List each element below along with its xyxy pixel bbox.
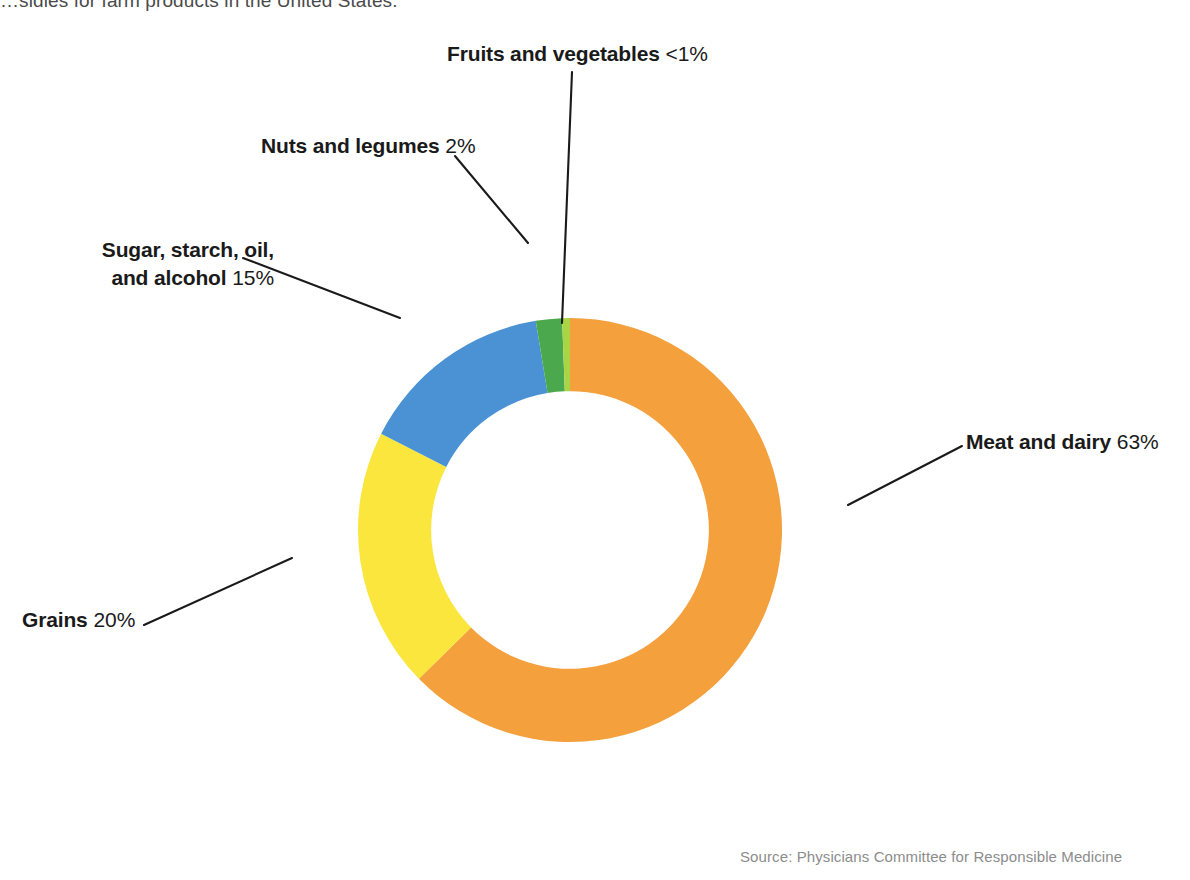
leader-line-meat	[848, 446, 962, 505]
label-sugar-name-line2: and alcohol	[111, 266, 226, 289]
source-credit: Source: Physicians Committee for Respons…	[740, 848, 1122, 865]
label-nuts-and-legumes: Nuts and legumes 2%	[261, 133, 475, 159]
leader-line-fruits	[562, 72, 572, 323]
donut-slices	[358, 318, 782, 742]
label-meat-value: 63%	[1117, 430, 1159, 453]
label-meat-and-dairy: Meat and dairy 63%	[966, 429, 1159, 455]
leader-line-nuts	[455, 156, 528, 243]
donut-chart: Fruits and vegetables <1% Nuts and legum…	[0, 0, 1190, 880]
label-meat-name: Meat and dairy	[966, 430, 1111, 453]
label-grains: Grains 20%	[22, 607, 135, 633]
label-sugar-value: 15%	[232, 266, 274, 289]
label-fruits-name: Fruits and vegetables	[447, 42, 660, 65]
label-sugar-starch-oil-alcohol: Sugar, starch, oil, and alcohol 15%	[52, 236, 274, 292]
label-grains-name: Grains	[22, 608, 88, 631]
label-grains-value: 20%	[93, 608, 135, 631]
label-fruits-value: <1%	[666, 42, 708, 65]
chart-page: …sidies for farm products in the United …	[0, 0, 1190, 880]
label-sugar-name-line1: Sugar, starch, oil,	[102, 238, 274, 261]
label-nuts-name: Nuts and legumes	[261, 134, 439, 157]
label-nuts-value: 2%	[445, 134, 475, 157]
slice-sugar-starch-oil-alcohol[interactable]	[381, 321, 547, 467]
label-fruits-and-vegetables: Fruits and vegetables <1%	[447, 41, 708, 67]
leader-line-grains	[144, 558, 292, 625]
slice-grains[interactable]	[358, 434, 471, 679]
